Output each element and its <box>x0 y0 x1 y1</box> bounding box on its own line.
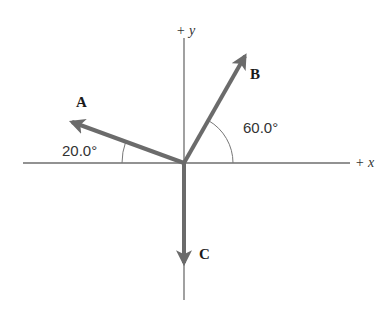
vector-b-label: B <box>250 67 260 82</box>
vector-b-arrow <box>184 56 245 163</box>
angle-arc-b <box>209 121 234 163</box>
angle-a-label: 20.0° <box>62 143 97 158</box>
vector-c-label: C <box>199 247 210 262</box>
y-axis-label: + y <box>176 24 195 38</box>
vector-diagram: + y + x A B C 20.0° 60.0° <box>0 0 391 323</box>
vector-a-label: A <box>76 95 87 110</box>
x-axis-label: + x <box>355 156 374 170</box>
diagram-graphics <box>0 0 391 323</box>
angle-arc-a <box>122 142 126 163</box>
angle-b-label: 60.0° <box>243 120 278 135</box>
